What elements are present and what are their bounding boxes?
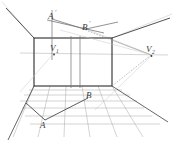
grid-recede-6 (112, 86, 143, 137)
label-v1-subscript: 1 (56, 48, 59, 54)
segment-a-to-b (45, 98, 88, 120)
line-bprime-extend-right (86, 22, 118, 29)
label-b-prime-mark: ' (89, 20, 91, 26)
perspective-figure: A ' B ' V 1 V 2 A B (0, 0, 176, 141)
label-a: A (39, 120, 46, 130)
grid-recede-1 (13, 86, 34, 137)
dash-v2-to-floor (112, 55, 151, 86)
wall-edge-top-right (112, 18, 170, 38)
v1-point-marker (53, 54, 55, 56)
wall-edge-top-left (6, 8, 34, 38)
wall-edges (6, 8, 170, 38)
label-b: B (86, 90, 92, 100)
ray-v2-down-left (95, 55, 152, 110)
label-b-prime: B (82, 22, 88, 32)
floor-edge-right (112, 86, 168, 122)
dashed-guides (88, 31, 151, 86)
label-a-prime-mark: ' (55, 9, 57, 15)
ceiling-ray-right-faint (112, 14, 172, 38)
segment-ab-path (26, 98, 88, 120)
grid-recede-5 (98, 86, 117, 137)
segment-a-to-left (26, 103, 45, 120)
figure-canvas: A ' B ' V 1 V 2 A B (0, 0, 176, 141)
floor-edge-left (8, 86, 34, 140)
grid-recede-3 (64, 86, 66, 137)
dash-bprime-v2 (88, 31, 151, 55)
ray-bprime-to-v2 (86, 29, 152, 55)
ray-v2-up-left (60, 30, 152, 55)
label-a-prime: A (47, 11, 54, 21)
back-wall-rectangle (34, 38, 112, 86)
v2-point-marker (151, 55, 153, 57)
label-v2-subscript: 2 (152, 49, 155, 55)
